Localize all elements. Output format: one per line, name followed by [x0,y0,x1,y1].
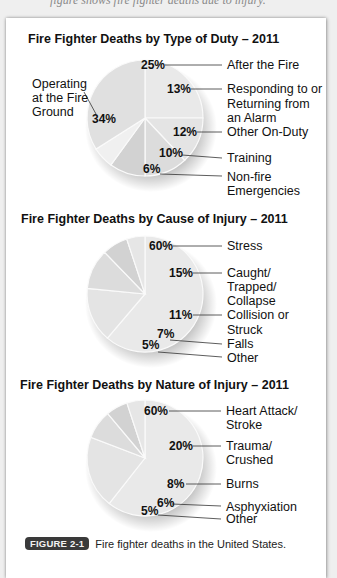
label-heart-attack-1: Heart Attack/ [226,404,298,418]
label-heart-attack-2: Stroke [226,418,262,432]
pct-burns: 8% [167,477,184,491]
figure-caption-text: Fire fighter deaths in the United States… [95,538,286,550]
pct-heart-attack: 60% [144,404,168,418]
pct-other-nature: 5% [141,504,158,518]
pct-trauma: 20% [169,439,193,453]
label-burns: Burns [226,477,259,491]
figure-number-badge: FIGURE 2-1 [25,537,89,550]
label-other-nature: Other [226,512,257,526]
label-trauma-2: Crushed [226,453,273,467]
pct-asphyxiation: 6% [157,496,174,510]
figure-caption: FIGURE 2-1 Fire fighter deaths in the Un… [25,537,286,550]
label-trauma-1: Trauma/ [226,439,272,453]
